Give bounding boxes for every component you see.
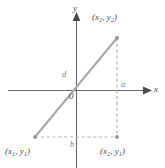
p1-close: ) [27,146,30,156]
segment-label-b: b [70,140,74,149]
p1-mid: , y [15,146,24,156]
p3-mid: , y [110,146,119,156]
p3-close: ) [122,146,125,156]
segment-label-a: a [121,80,125,89]
y-axis-arrowhead [73,12,81,21]
axes-group [8,12,152,168]
segment-label-d: d [62,70,66,79]
x-axis-label: x [154,85,158,94]
p2-mid: , y [102,12,111,22]
figure-canvas [0,0,165,168]
point-label-x2-y1: (x2, y1) [100,147,125,157]
point-marker-p3 [115,135,119,139]
p3-open: (x [100,146,107,156]
point-marker-p1 [33,135,37,139]
p2-open: (x [92,12,99,22]
p1-open: (x [5,146,12,156]
origin-label: 0 [69,92,74,101]
x-axis-arrowhead [143,87,152,95]
y-axis-label: y [73,4,77,13]
point-label-x2-y2: (x2, y2) [92,13,117,23]
point-label-x1-y1: (x1, y1) [5,147,30,157]
p2-close: ) [114,12,117,22]
coordinate-geometry-figure: y x 0 (x2, y2) (x1, y1) (x2, y1) d a b [0,0,165,168]
point-marker-p2 [115,36,119,40]
